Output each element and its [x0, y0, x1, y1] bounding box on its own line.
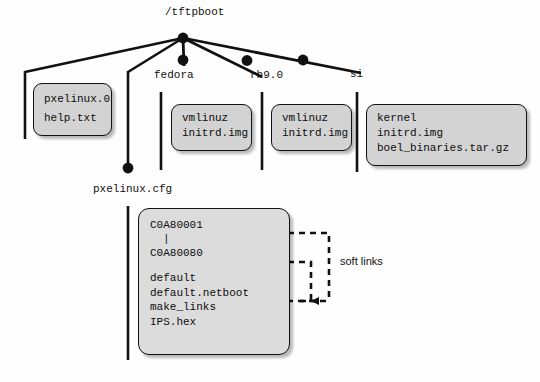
node-dot-fedora: [178, 55, 189, 66]
config-range-separator: |: [150, 233, 279, 246]
config-range-last: C0A80080: [150, 246, 279, 261]
fedora-files-box: vmlinuz initrd.img: [171, 104, 252, 151]
file-line: default: [150, 271, 279, 286]
file-line: boel_binaries.tar.gz: [377, 141, 517, 156]
branch-label-si: si: [350, 68, 363, 80]
file-line: kernel: [377, 111, 517, 126]
branch-line-pxelinux: [25, 38, 183, 72]
branch-line-si: [183, 38, 361, 73]
rh9-files-box: vmlinuz initrd.img: [271, 104, 352, 151]
pxelinux-cfg-files-box: C0A80001 | C0A80080 default default.netb…: [138, 208, 290, 355]
root-node-label: /tftpboot: [165, 6, 224, 18]
branch-label-fedora: fedora: [154, 69, 194, 81]
file-line: initrd.img: [182, 126, 242, 141]
file-line: IPS.hex: [150, 315, 279, 330]
branch-label-rh9: rh9.0: [250, 69, 283, 81]
file-line: vmlinuz: [182, 111, 242, 126]
si-files-box: kernel initrd.img boel_binaries.tar.gz: [366, 104, 527, 166]
file-line: initrd.img: [282, 126, 342, 141]
file-line: make_links: [150, 300, 279, 315]
node-dot-root: [178, 33, 189, 44]
file-line: help.txt: [44, 109, 102, 128]
file-line: default.netboot: [150, 286, 279, 301]
branch-label-pxelinux-cfg: pxelinux.cfg: [93, 183, 172, 195]
soft-links-annotation: soft links: [340, 255, 383, 267]
diagram-canvas: /tftpboot fedora rh9.0 si pxelinux.cfg p…: [0, 0, 540, 382]
file-line: initrd.img: [377, 126, 517, 141]
file-line: pxelinux.0: [44, 90, 102, 109]
config-spacer: [150, 260, 279, 271]
node-dot-si: [298, 55, 309, 66]
pxelinux-files-box: pxelinux.0 help.txt: [33, 83, 112, 136]
file-line: vmlinuz: [282, 111, 342, 126]
node-dot-rh9: [242, 55, 253, 66]
config-range-first: C0A80001: [150, 218, 279, 233]
